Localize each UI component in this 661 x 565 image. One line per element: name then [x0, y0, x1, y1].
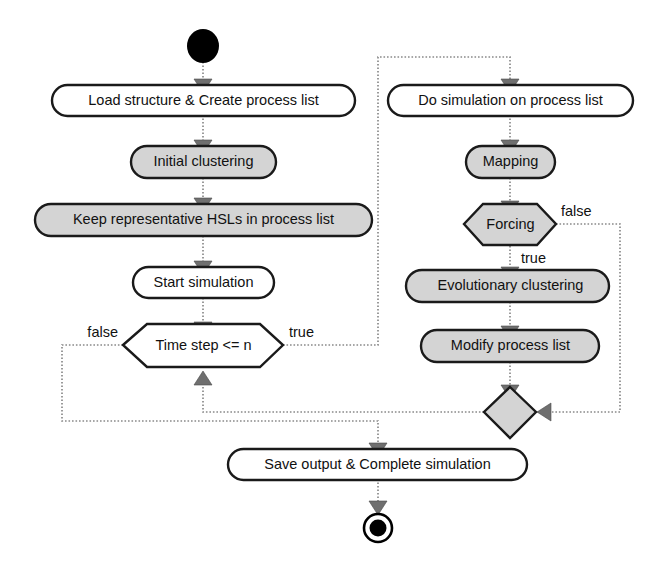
action-mapping[interactable]: Mapping	[466, 146, 555, 178]
action-start-simulation[interactable]: Start simulation	[133, 267, 274, 298]
action-keep-hsls[interactable]: Keep representative HSLs in process list	[35, 204, 372, 236]
decision-time-step[interactable]: Time step <= n false true	[87, 324, 314, 367]
action-mapping-label: Mapping	[483, 153, 539, 169]
guard-time-step-false: false	[87, 324, 118, 340]
guard-time-step-true: true	[289, 324, 314, 340]
action-load-structure[interactable]: Load structure & Create process list	[52, 85, 355, 116]
decision-forcing-label: Forcing	[486, 216, 534, 232]
merge-node[interactable]	[484, 387, 536, 438]
action-do-simulation-label: Do simulation on process list	[418, 92, 603, 108]
end-dot-icon	[370, 520, 387, 537]
action-keep-hsls-label: Keep representative HSLs in process list	[73, 211, 334, 227]
action-initial-clustering-label: Initial clustering	[154, 153, 254, 169]
action-save-output-label: Save output & Complete simulation	[264, 456, 491, 472]
edge-forcing-false-to-merge	[537, 224, 620, 412]
activity-diagram-canvas: Load structure & Create process list Ini…	[0, 0, 661, 565]
arrowhead-merge-into-timestep	[194, 371, 212, 385]
final-node	[364, 514, 392, 542]
uml-activity-diagram: Load structure & Create process list Ini…	[0, 0, 661, 565]
initial-node	[187, 29, 219, 63]
action-save-output[interactable]: Save output & Complete simulation	[228, 449, 527, 480]
action-modify-process-list[interactable]: Modify process list	[421, 330, 599, 362]
decision-time-step-label: Time step <= n	[155, 337, 251, 353]
merge-node-shape	[484, 387, 536, 438]
guard-forcing-true: true	[521, 250, 546, 266]
action-load-structure-label: Load structure & Create process list	[88, 92, 319, 108]
action-modify-process-list-label: Modify process list	[451, 337, 570, 353]
decision-forcing[interactable]: Forcing false true	[464, 203, 592, 266]
start-circle-icon	[187, 29, 219, 63]
action-do-simulation[interactable]: Do simulation on process list	[388, 85, 633, 116]
action-evolutionary-clustering[interactable]: Evolutionary clustering	[406, 270, 609, 302]
action-start-simulation-label: Start simulation	[154, 274, 254, 290]
arrowhead-forcingfalse-into-merge	[537, 403, 551, 421]
edge-merge-to-timestep	[203, 372, 505, 412]
action-evolutionary-clustering-label: Evolutionary clustering	[438, 277, 584, 293]
guard-forcing-false: false	[561, 203, 592, 219]
action-initial-clustering[interactable]: Initial clustering	[131, 146, 276, 178]
